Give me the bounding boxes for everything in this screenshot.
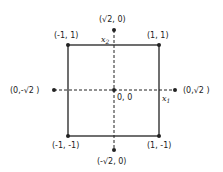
corner-point-bottom-left [66,134,70,138]
corner-label-top-right: (1, 1) [147,31,169,40]
corner-point-bottom-right [157,134,161,138]
axis-name-x1: x1 [162,94,170,104]
center-point [112,88,116,92]
axis-point-top [112,28,116,32]
axis-label-left: (0,-√2 ) [10,86,40,95]
corner-label-bottom-right: (1, -1) [147,141,171,150]
axis-point-bottom [112,148,116,152]
corner-point-top-right [157,43,161,47]
axis-name-x2: x2 [101,35,110,45]
axis-point-left [52,88,56,92]
corner-point-top-left [66,43,70,47]
corner-label-top-left: (-1, 1) [54,31,78,40]
center-label: 0, 0 [117,93,132,102]
axis-label-bottom: (-√2, 0) [97,157,127,166]
corner-label-bottom-left: (-1, -1) [52,141,79,150]
axis-label-top: (√2, 0) [99,15,126,24]
design-space-diagram: (-1, 1) (1, 1) (-1, -1) (1, -1) (√2, 0) … [0,0,223,172]
axis-label-right: (0,√2 ) [183,86,210,95]
axis-point-right [173,88,177,92]
